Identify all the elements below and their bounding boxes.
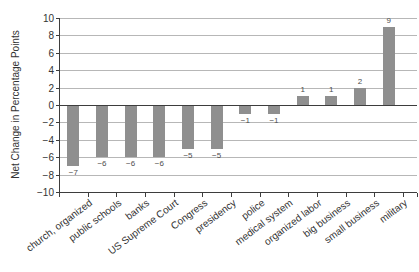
bar-chart-figure: Net Change in Percentage Points −7−6−6−6… bbox=[0, 0, 419, 272]
x-category-label: military bbox=[378, 197, 410, 225]
x-category-labels-layer: church, organizedpublic schoolsbanksUS S… bbox=[0, 0, 419, 272]
